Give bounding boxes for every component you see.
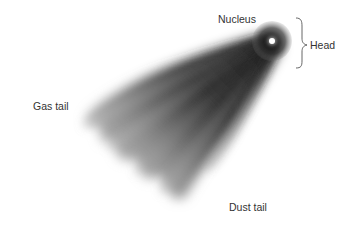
- head-label: Head: [310, 40, 335, 51]
- nucleus-label: Nucleus: [218, 14, 256, 25]
- head-brace: [296, 18, 307, 68]
- dust-tail-label: Dust tail: [229, 202, 267, 213]
- comet-tail: [82, 34, 282, 199]
- nucleus-dot: [269, 38, 275, 44]
- gas-tail-label: Gas tail: [33, 101, 69, 112]
- comet-illustration: [0, 0, 348, 236]
- comet-diagram: Nucleus Head Gas tail Dust tail: [0, 0, 348, 236]
